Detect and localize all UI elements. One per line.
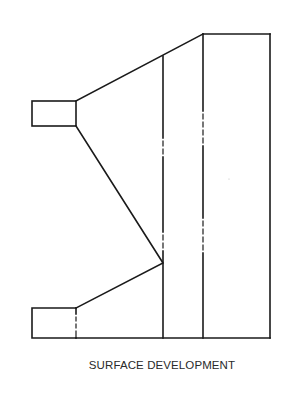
- drawing-caption: SURFACE DEVELOPMENT: [0, 359, 291, 371]
- upper-slant-edge: [76, 34, 203, 101]
- bottom-collar-rectangle: [32, 308, 76, 338]
- surface-development-drawing: [0, 0, 291, 394]
- v-notch-edge: [76, 126, 163, 308]
- scan-speck: [228, 178, 229, 179]
- top-collar-rectangle: [32, 101, 76, 126]
